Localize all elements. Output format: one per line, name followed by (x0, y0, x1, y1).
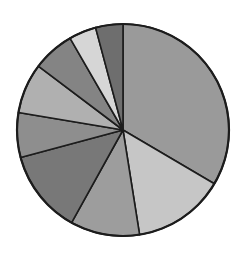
pie-chart-canvas (0, 0, 247, 257)
pie-chart-figure (0, 0, 247, 257)
